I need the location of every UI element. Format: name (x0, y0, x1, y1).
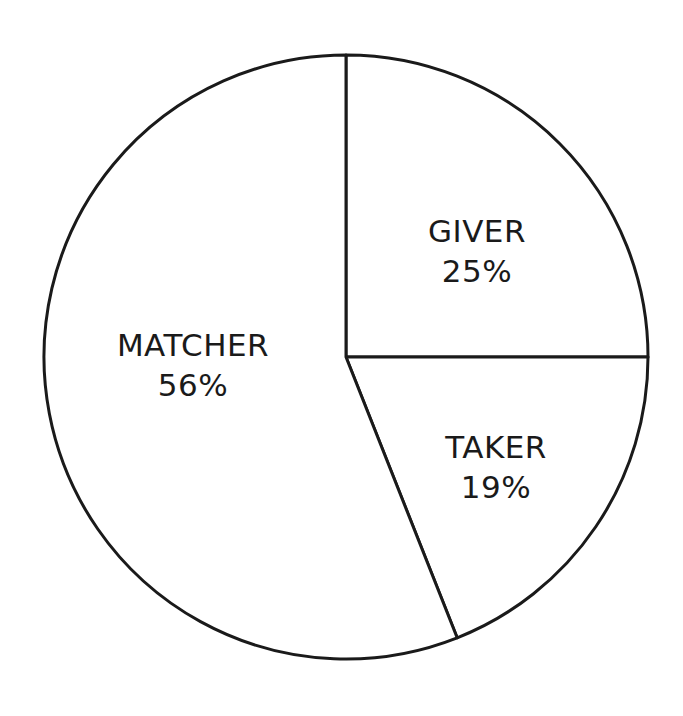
giver-label: GIVER (428, 213, 526, 249)
pie-slice-giver (346, 55, 648, 357)
taker-percent: 19% (461, 469, 531, 505)
giver-percent: 25% (442, 253, 512, 289)
pie-chart: GIVER 25% TAKER 19% MATCHER 56% (0, 0, 683, 716)
matcher-label: MATCHER (117, 327, 269, 363)
matcher-percent: 56% (158, 367, 228, 403)
taker-label: TAKER (444, 429, 547, 465)
